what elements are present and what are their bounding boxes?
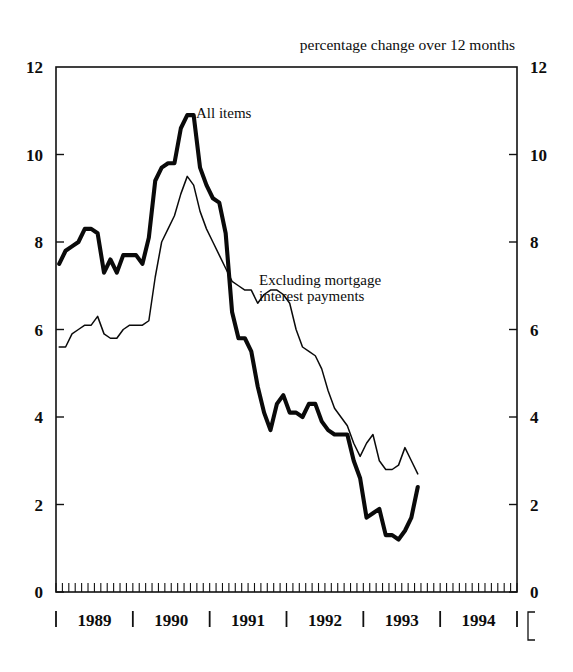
y-axis-label-right-6: 6: [530, 321, 539, 340]
x-axis-year-1992: 1992: [308, 611, 342, 630]
y-axis-label-left-8: 8: [35, 233, 44, 252]
chart-title: percentage change over 12 months: [300, 36, 515, 53]
annotation-excluding-mortgage-line2: interest payments: [259, 288, 365, 304]
annotation-excluding-mortgage-line1: Excluding mortgage: [259, 272, 381, 288]
y-axis-label-right-0: 0: [530, 583, 539, 602]
x-axis-month-ticks: [56, 583, 517, 592]
y-axis-label-left-10: 10: [26, 146, 43, 165]
plot-frame: [56, 67, 517, 592]
x-axis-year-separators: [56, 611, 517, 627]
left-axis-ticks: [56, 155, 64, 593]
y-axis-label-right-10: 10: [530, 146, 547, 165]
x-axis-year-1990: 1990: [154, 611, 188, 630]
x-axis-year-1991: 1991: [231, 611, 265, 630]
right-axis-labels: 024681012: [530, 58, 547, 602]
y-axis-label-right-8: 8: [530, 233, 539, 252]
rpi-inflation-chart: percentage change over 12 months 0246810…: [0, 0, 573, 672]
x-axis-year-1993: 1993: [385, 611, 419, 630]
chart-container: percentage change over 12 months 0246810…: [0, 0, 573, 672]
right-axis-ticks: [509, 155, 517, 593]
x-axis-year-1989: 1989: [77, 611, 111, 630]
y-axis-label-right-4: 4: [530, 408, 539, 427]
y-axis-label-left-12: 12: [26, 58, 43, 77]
y-axis-label-right-12: 12: [530, 58, 547, 77]
left-axis-labels: 024681012: [26, 58, 44, 602]
series-line-excluding-mortgage-interest: [59, 176, 418, 474]
x-axis-year-1994: 1994: [462, 611, 497, 630]
y-axis-label-left-2: 2: [35, 496, 44, 515]
y-axis-label-left-0: 0: [35, 583, 44, 602]
annotation-all-items: All items: [196, 105, 252, 121]
y-axis-label-left-4: 4: [35, 408, 44, 427]
corner-bracket-icon: [528, 612, 535, 640]
y-axis-label-left-6: 6: [35, 321, 44, 340]
y-axis-label-right-2: 2: [530, 496, 539, 515]
series-line-all-items: [59, 115, 418, 539]
